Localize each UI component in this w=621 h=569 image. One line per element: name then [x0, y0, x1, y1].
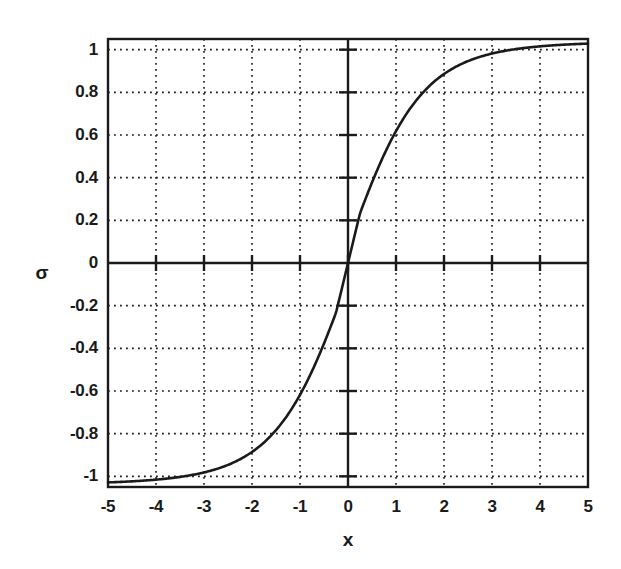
- x-tick-label: -2: [245, 497, 260, 517]
- x-tick-label: 3: [487, 497, 496, 517]
- x-tick-label: 2: [439, 497, 448, 517]
- x-tick-label: -1: [293, 497, 308, 517]
- y-tick-label: 1: [89, 40, 98, 60]
- x-tick-label: 1: [391, 497, 400, 517]
- y-tick-label: 0.2: [75, 210, 98, 230]
- x-axis-title: x: [343, 529, 354, 551]
- x-tick-label: 0: [343, 497, 352, 517]
- x-tick-label: 5: [583, 497, 592, 517]
- y-tick-label: -0.8: [70, 424, 98, 444]
- y-tick-label: -0.4: [70, 338, 98, 358]
- y-tick-label: 0.8: [75, 82, 98, 102]
- x-tick-label: -4: [149, 497, 164, 517]
- x-tick-label: 4: [535, 497, 544, 517]
- y-tick-label: -1: [83, 466, 98, 486]
- y-tick-label: -0.6: [70, 381, 98, 401]
- y-tick-label: -0.2: [70, 296, 98, 316]
- y-tick-label: 0.4: [75, 168, 98, 188]
- y-tick-label: 0: [89, 253, 98, 273]
- y-axis-title: σ: [36, 262, 49, 284]
- x-tick-label: -5: [101, 497, 116, 517]
- sigmoid-plot-figure: -1-0.8-0.6-0.4-0.200.20.40.60.81 -5-4-3-…: [0, 0, 621, 569]
- x-tick-label: -3: [197, 497, 212, 517]
- y-tick-label: 0.6: [75, 125, 98, 145]
